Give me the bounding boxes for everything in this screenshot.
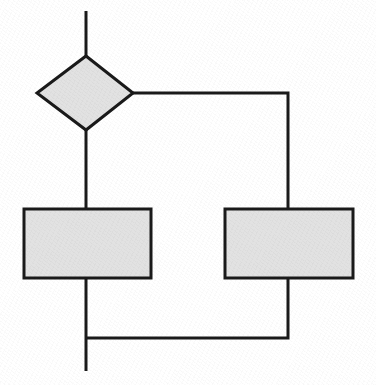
process-rectangle-left-node[interactable] — [24, 209, 151, 278]
connector-process-right-to-merge — [86, 278, 288, 338]
flowchart-diagram — [0, 0, 376, 385]
node-group — [24, 56, 353, 278]
process-rectangle-right-node[interactable] — [225, 209, 353, 278]
connector-decision-to-process-right — [133, 93, 288, 209]
flowchart-svg — [0, 0, 376, 385]
connector-group — [86, 11, 288, 371]
decision-diamond-node[interactable] — [37, 56, 133, 130]
